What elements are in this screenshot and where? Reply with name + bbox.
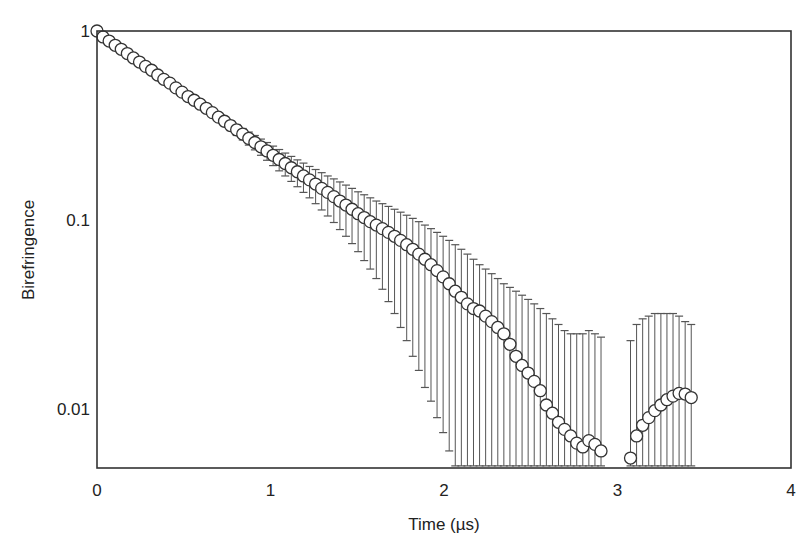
y-tick-label: 0.01 (57, 400, 90, 419)
x-tick-label: 2 (439, 481, 448, 500)
data-point (504, 338, 516, 350)
chart-background (0, 0, 810, 552)
data-point (685, 392, 697, 404)
x-tick-label: 4 (786, 481, 795, 500)
data-point (631, 430, 643, 442)
birefringence-chart: 01234 10.10.01 Time (µs) Birefringence (0, 0, 810, 552)
data-point (625, 452, 637, 464)
x-tick-label: 3 (613, 481, 622, 500)
data-point (534, 385, 546, 397)
y-tick-label: 0.1 (66, 211, 90, 230)
data-point (595, 445, 607, 457)
x-tick-label: 0 (92, 481, 101, 500)
x-axis-title: Time (µs) (408, 515, 480, 534)
y-axis-title: Birefringence (19, 200, 38, 300)
y-tick-label: 1 (81, 22, 90, 41)
x-tick-label: 1 (266, 481, 275, 500)
